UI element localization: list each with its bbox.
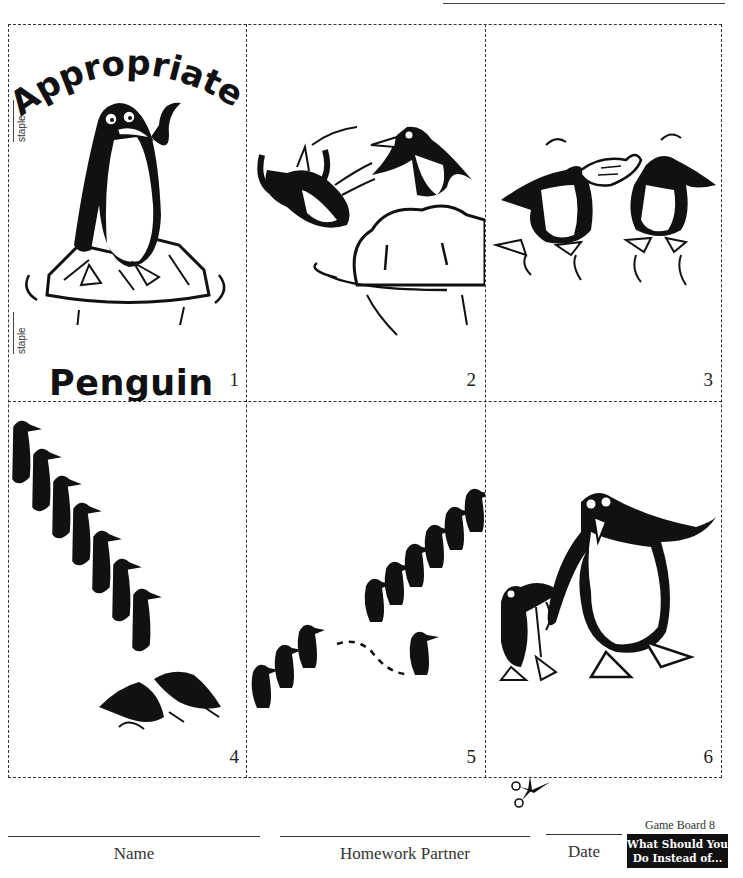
panel-number: 6 [704,746,714,768]
panel-1: Appropriate Penguin 1 [9,25,246,401]
game-board-label: Game Board 8 [630,818,730,833]
scissors-icon [510,776,552,810]
penguin-on-ice-illustration [19,95,239,325]
game-board-badge: What Should You Do Instead of... [627,834,728,868]
panel-number: 5 [467,746,477,768]
staple-line [13,312,14,354]
panel-6: 6 [486,402,722,778]
staple-marker-top: staple [13,100,27,142]
name-label: Name [8,844,260,864]
penguins-fighting-over-fish-illustration [486,130,722,290]
panel-2: 2 [247,25,485,401]
pushing-penguin-illustration [247,95,485,345]
title-penguin: Penguin [49,363,214,401]
staple-marker-bottom: staple [13,312,27,354]
header-rule [443,3,725,4]
line-of-penguins-pushing-illustration [9,417,246,747]
panel-number: 3 [704,369,714,391]
panel-number: 1 [230,369,240,391]
badge-line-1: What Should You [627,837,728,851]
penguin-cutting-line-illustration [247,482,485,722]
name-field-line[interactable] [8,836,260,837]
homework-partner-field-line[interactable] [280,836,530,837]
panel-5: 5 [247,402,485,778]
panel-3: 3 [486,25,722,401]
panel-number: 2 [467,369,477,391]
homework-partner-label: Homework Partner [280,844,530,864]
date-label: Date [546,842,622,862]
staple-line [13,100,14,142]
badge-line-2: Do Instead of... [627,851,728,865]
big-and-small-penguin-illustration [486,482,722,682]
date-field-line[interactable] [546,834,622,835]
panel-4: 4 [9,402,246,778]
panel-number: 4 [230,746,240,768]
